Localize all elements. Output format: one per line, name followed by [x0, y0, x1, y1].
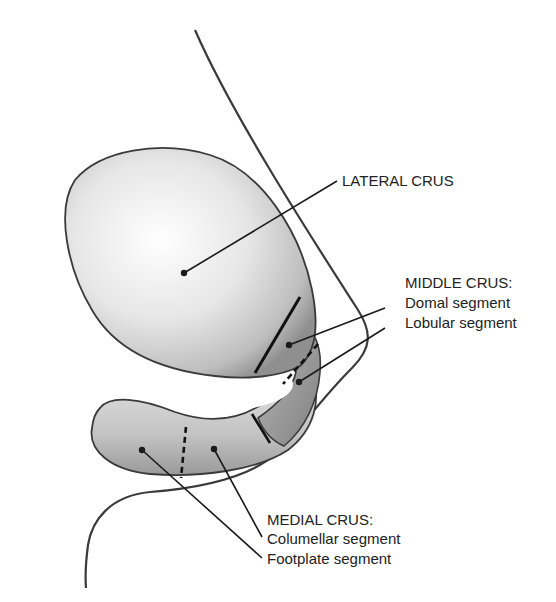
label-footplate-segment: Footplate segment [267, 550, 391, 568]
label-middle-crus-heading: MIDDLE CRUS: [405, 274, 513, 292]
label-medial-crus-heading: MEDIAL CRUS: [267, 511, 373, 529]
label-columellar-segment: Columellar segment [267, 530, 400, 548]
label-domal-segment: Domal segment [405, 294, 510, 312]
label-lobular-segment: Lobular segment [405, 314, 517, 332]
label-lateral-crus: LATERAL CRUS [342, 172, 454, 190]
